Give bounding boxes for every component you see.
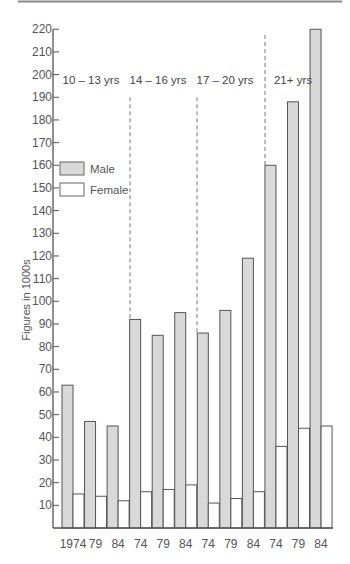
y-tick-label: 140 bbox=[32, 204, 52, 218]
x-tick-label: 79 bbox=[224, 537, 238, 551]
y-tick-label: 50 bbox=[39, 408, 53, 422]
y-tick-label: 210 bbox=[32, 45, 52, 59]
bar-male bbox=[197, 333, 208, 528]
bar-female bbox=[118, 501, 129, 528]
y-tick-label: 30 bbox=[39, 453, 53, 467]
bar-female bbox=[276, 446, 287, 528]
y-tick-label: 10 bbox=[39, 498, 53, 512]
y-tick-label: 60 bbox=[39, 385, 53, 399]
bar-male bbox=[220, 310, 231, 528]
bar-female bbox=[231, 499, 242, 528]
x-tick-label: 84 bbox=[314, 537, 328, 551]
y-tick-label: 130 bbox=[32, 226, 52, 240]
x-tick-label: 84 bbox=[111, 537, 125, 551]
bar-male bbox=[242, 258, 253, 528]
x-tick-label: 84 bbox=[247, 537, 261, 551]
bar-female bbox=[163, 489, 174, 528]
y-tick-label: 160 bbox=[32, 158, 52, 172]
legend: Male Female bbox=[60, 162, 128, 196]
group-label: 17 – 20 yrs bbox=[197, 74, 254, 86]
y-tick-label: 200 bbox=[32, 68, 52, 82]
group-label: 10 – 13 yrs bbox=[63, 74, 120, 86]
y-tick-label: 80 bbox=[39, 340, 53, 354]
legend-male-swatch bbox=[60, 162, 84, 175]
bar-female bbox=[253, 492, 264, 528]
bar-female bbox=[186, 485, 197, 528]
x-tick-label: 84 bbox=[179, 537, 193, 551]
x-tick-label: 74 bbox=[202, 537, 216, 551]
bar-male bbox=[152, 335, 163, 528]
y-tick-label: 150 bbox=[32, 181, 52, 195]
bar-female bbox=[208, 503, 219, 528]
group-label: 21+ yrs bbox=[274, 74, 312, 86]
bar-male bbox=[265, 165, 276, 528]
x-tick-label: 74 bbox=[269, 537, 283, 551]
y-axis: 1020304050607080901001101201301401501601… bbox=[32, 22, 59, 528]
y-tick-label: 110 bbox=[33, 272, 52, 286]
y-tick-label: 90 bbox=[39, 317, 53, 331]
bar-female bbox=[321, 426, 332, 528]
bar-male bbox=[310, 29, 321, 528]
y-tick-label: 20 bbox=[39, 476, 53, 490]
y-tick-label: 180 bbox=[32, 113, 52, 127]
bar-chart: 1020304050607080901001101201301401501601… bbox=[0, 0, 350, 564]
legend-female-label: Female bbox=[90, 184, 128, 196]
legend-male-label: Male bbox=[90, 163, 115, 175]
bar-male bbox=[288, 102, 299, 528]
bar-male bbox=[107, 426, 118, 528]
group-labels: 10 – 13 yrs14 – 16 yrs17 – 20 yrs21+ yrs bbox=[63, 74, 313, 86]
bar-male bbox=[62, 385, 73, 528]
y-tick-label: 170 bbox=[32, 136, 52, 150]
group-label: 14 – 16 yrs bbox=[130, 74, 187, 86]
bar-female bbox=[299, 428, 310, 528]
x-tick-label: 1974 bbox=[60, 537, 87, 551]
x-axis: 19747984747984747984747984 bbox=[53, 528, 333, 551]
y-tick-label: 70 bbox=[39, 362, 53, 376]
bar-male bbox=[175, 313, 186, 528]
y-tick-label: 40 bbox=[39, 430, 53, 444]
bar-male bbox=[130, 319, 141, 528]
x-tick-label: 79 bbox=[89, 537, 103, 551]
y-tick-label: 220 bbox=[32, 22, 52, 36]
bar-female bbox=[141, 492, 152, 528]
bar-male bbox=[85, 421, 96, 528]
y-tick-label: 190 bbox=[32, 90, 52, 104]
x-tick-label: 79 bbox=[157, 537, 171, 551]
x-tick-label: 79 bbox=[292, 537, 306, 551]
bar-female bbox=[73, 494, 84, 528]
x-tick-label: 74 bbox=[134, 537, 148, 551]
y-tick-label: 100 bbox=[32, 294, 52, 308]
y-axis-label: Figures in 1000s bbox=[20, 259, 32, 341]
legend-female-swatch bbox=[60, 183, 84, 196]
bars bbox=[62, 29, 332, 528]
bar-female bbox=[96, 496, 107, 528]
y-tick-label: 120 bbox=[32, 249, 52, 263]
